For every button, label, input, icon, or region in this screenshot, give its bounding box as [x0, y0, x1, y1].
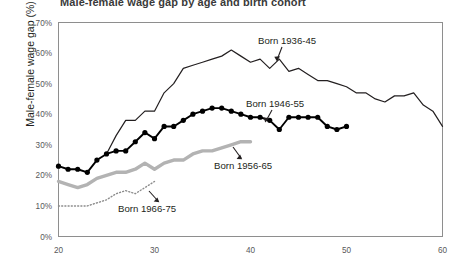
data-point	[114, 148, 119, 153]
y-tick-label: 60%	[36, 49, 52, 58]
data-point	[94, 157, 99, 162]
y-tick-label: 10%	[36, 202, 52, 211]
data-point	[104, 151, 109, 156]
x-tick-label: 20	[54, 246, 64, 255]
series-line	[59, 142, 251, 188]
data-point	[171, 124, 176, 129]
data-point	[142, 130, 147, 135]
data-point	[219, 106, 224, 111]
x-tick-label: 50	[342, 246, 352, 255]
data-point	[56, 164, 61, 169]
series-born-1956-65	[59, 142, 251, 188]
x-tick-label: 40	[246, 246, 256, 255]
arrow-head-1966-75	[154, 197, 160, 202]
chart-container: Male-female wage gap by age and birth co…	[0, 0, 456, 265]
y-tick-label: 70%	[36, 19, 52, 28]
data-series-group	[56, 50, 443, 206]
data-point	[238, 112, 243, 117]
data-point	[248, 115, 253, 120]
x-tick-label: 60	[438, 246, 448, 255]
data-point	[296, 115, 301, 120]
data-point	[277, 127, 282, 132]
data-point	[334, 127, 339, 132]
data-point	[133, 139, 138, 144]
x-tick-labels: 2030405060	[54, 246, 448, 255]
x-tick-label: 30	[150, 246, 160, 255]
data-point	[181, 118, 186, 123]
data-point	[162, 124, 167, 129]
data-point	[325, 124, 330, 129]
y-tick-label: 0%	[40, 233, 52, 242]
annotation-arrows	[149, 47, 282, 202]
data-point	[210, 106, 215, 111]
y-tick-label: 30%	[36, 141, 52, 150]
plot-frame	[59, 23, 443, 237]
data-point	[123, 148, 128, 153]
data-point	[344, 124, 349, 129]
data-point	[306, 115, 311, 120]
y-tick-label: 50%	[36, 80, 52, 89]
y-tick-label: 40%	[36, 110, 52, 119]
data-point	[258, 115, 263, 120]
data-point	[85, 170, 90, 175]
y-tick-label: 20%	[36, 171, 52, 180]
data-point	[229, 109, 234, 114]
data-point	[75, 167, 80, 172]
plot-area: 0%10%20%30%40%50%60%70% 2030405060	[0, 0, 456, 265]
data-point	[200, 109, 205, 114]
data-point	[315, 115, 320, 120]
data-point	[152, 136, 157, 141]
series-line	[59, 108, 347, 172]
data-point	[190, 112, 195, 117]
data-point	[66, 167, 71, 172]
y-tick-labels: 0%10%20%30%40%50%60%70%	[36, 19, 52, 242]
series-born-1946-55	[56, 106, 349, 175]
data-point	[286, 115, 291, 120]
